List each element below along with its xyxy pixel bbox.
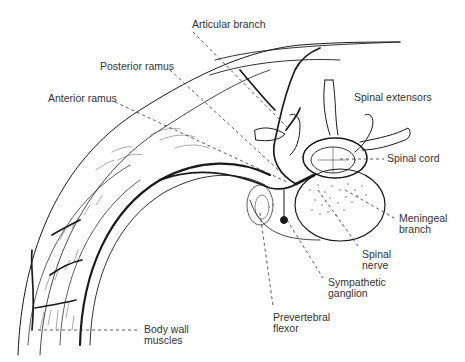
label-meningeal-branch: Meningeal branch (399, 213, 447, 235)
label-meningeal-line2: branch (399, 224, 447, 235)
body-wall-nerve-1 (52, 220, 80, 235)
nerves (32, 48, 320, 330)
body-wall-nerve-4 (32, 250, 34, 330)
label-spinal-cord: Spinal cord (387, 153, 440, 164)
leader-posterior-ramus (170, 70, 287, 178)
leader-spinal-nerve (318, 190, 358, 246)
lamina-left (290, 114, 300, 155)
label-prevertebral-flexor: Prevertebral flexor (273, 312, 330, 334)
body-wall-inner-arc-3 (28, 165, 130, 345)
label-prevertebral-line2: flexor (273, 323, 330, 334)
leader-sympathetic-ganglion (287, 220, 323, 278)
label-sympathetic-line2: ganglion (328, 288, 386, 299)
body-wall-inner-arc-1 (80, 164, 270, 345)
spinal-nerve-diagram (0, 0, 465, 362)
skin-contour (40, 70, 270, 355)
transverse-process-left (255, 128, 285, 141)
lamina-right (355, 114, 373, 152)
label-posterior-ramus: Posterior ramus (100, 61, 174, 72)
label-spinal-extensors: Spinal extensors (354, 92, 432, 103)
leader-prevertebral-flexor (260, 213, 273, 306)
transverse-process-right (360, 128, 410, 150)
leader-articular-branch (193, 32, 288, 128)
label-anterior-ramus: Anterior ramus (48, 93, 117, 104)
label-spinal-nerve-line2: nerve (362, 260, 391, 271)
articular-branch-nerve (286, 108, 300, 130)
body-wall-nerve-3 (35, 300, 76, 308)
outer-body-contour (18, 42, 400, 355)
label-sympathetic-ganglion: Sympathetic ganglion (328, 277, 386, 299)
dorsal-muscle-layer (210, 42, 400, 75)
vertebral-body-stipple (309, 183, 366, 215)
label-body-wall-line2: muscles (144, 335, 189, 346)
posterior-ramus-branch (240, 70, 275, 110)
spinous-process (324, 80, 338, 135)
label-spinal-nerve: Spinal nerve (362, 249, 391, 271)
label-articular-branch: Articular branch (192, 19, 266, 30)
leader-meningeal-branch (345, 190, 394, 218)
label-body-wall-muscles: Body wall muscles (144, 324, 189, 346)
anterior-ramus-nerve (160, 172, 296, 188)
